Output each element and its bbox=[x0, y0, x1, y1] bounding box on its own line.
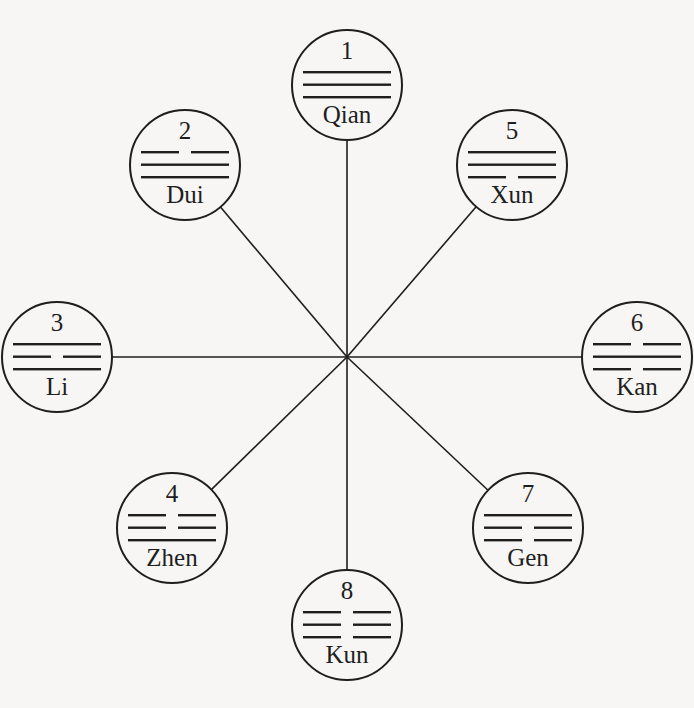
spoke-dui bbox=[220, 207, 347, 357]
node-name: Xun bbox=[490, 181, 534, 208]
trigram-node-kun: 8Kun bbox=[292, 570, 402, 680]
node-number: 8 bbox=[341, 577, 354, 604]
node-name: Kun bbox=[325, 641, 369, 668]
spoke-xun bbox=[347, 207, 476, 357]
trigram-node-li: 3Li bbox=[2, 302, 112, 412]
node-name: Dui bbox=[166, 181, 204, 208]
spoke-zhen bbox=[211, 357, 347, 490]
node-name: Li bbox=[46, 373, 68, 400]
node-number: 5 bbox=[506, 117, 519, 144]
node-name: Gen bbox=[507, 544, 549, 571]
node-name: Zhen bbox=[146, 544, 198, 571]
spoke-gen bbox=[347, 357, 488, 490]
trigram-node-xun: 5Xun bbox=[457, 110, 567, 220]
node-number: 1 bbox=[341, 37, 354, 64]
trigram-node-zhen: 4Zhen bbox=[117, 473, 227, 583]
node-name: Kan bbox=[616, 373, 658, 400]
node-number: 6 bbox=[631, 309, 644, 336]
trigram-node-dui: 2Dui bbox=[130, 110, 240, 220]
node-number: 4 bbox=[166, 480, 179, 507]
node-number: 7 bbox=[522, 480, 535, 507]
node-number: 3 bbox=[51, 309, 64, 336]
trigram-node-gen: 7Gen bbox=[473, 473, 583, 583]
trigram-diagram: 1Qian2Dui3Li4Zhen5Xun6Kan7Gen8Kun bbox=[0, 0, 694, 708]
trigram-node-qian: 1Qian bbox=[292, 30, 402, 140]
trigram-node-kan: 6Kan bbox=[582, 302, 692, 412]
node-number: 2 bbox=[179, 117, 192, 144]
node-name: Qian bbox=[323, 101, 372, 128]
